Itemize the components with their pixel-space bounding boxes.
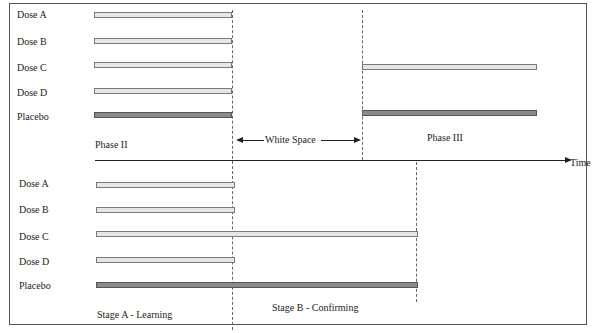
stage-a-bar-dose-a: [96, 182, 235, 188]
bottom-row-label-dose-b: Dose B: [19, 204, 49, 216]
phase3-label: Phase III: [427, 132, 463, 144]
diagram-frame: [9, 3, 587, 325]
stage-b-label: Stage B - Confirming: [272, 302, 358, 314]
white-space-arrow-right-icon: [354, 137, 361, 143]
phase2-bar-dose-d: [94, 88, 232, 94]
stage-a-bar-dose-d: [96, 257, 235, 263]
bottom-row-label-dose-d: Dose D: [19, 256, 49, 268]
bottom-row-label-placebo: Placebo: [19, 280, 51, 292]
white-space-arrow-right-line: [321, 140, 355, 141]
time-axis-label: Time: [570, 157, 591, 169]
phase2-bar-dose-b: [94, 38, 232, 44]
phase3-start-divider: [362, 10, 363, 160]
phase3-bar-placebo: [362, 110, 537, 116]
phase2-bar-dose-a: [94, 12, 232, 18]
top-row-label-dose-d: Dose D: [17, 87, 47, 99]
bottom-row-label-dose-a: Dose A: [19, 178, 49, 190]
time-axis: [95, 160, 565, 161]
stage-ab-bar-placebo: [96, 282, 418, 288]
phase3-bar-dose-c: [362, 64, 537, 70]
top-row-label-dose-a: Dose A: [17, 9, 47, 21]
phase2-bar-dose-c: [94, 62, 232, 68]
white-space-label: White Space: [265, 134, 316, 146]
top-row-label-dose-c: Dose C: [17, 62, 47, 74]
stage-a-label: Stage A - Learning: [97, 309, 172, 321]
stage-ab-bar-dose-c: [96, 231, 418, 237]
phase2-label: Phase II: [95, 139, 128, 151]
bottom-row-label-dose-c: Dose C: [19, 231, 49, 243]
top-row-label-dose-b: Dose B: [17, 36, 47, 48]
white-space-arrow-left-line: [242, 140, 264, 141]
stage-a-bar-dose-b: [96, 207, 235, 213]
top-row-label-placebo: Placebo: [17, 111, 49, 123]
phase2-bar-placebo: [94, 112, 232, 118]
